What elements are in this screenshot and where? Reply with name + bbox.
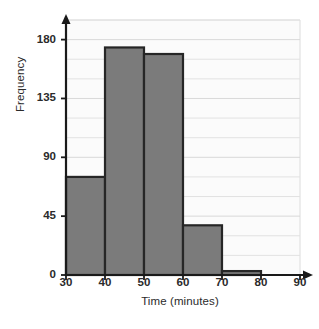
y-axis-arrow	[62, 14, 71, 24]
x-tick-labels: 30405060708090	[0, 277, 319, 297]
x-tick-label: 70	[207, 277, 237, 289]
histogram-chart: 04590135180 30405060708090 Frequency Tim…	[0, 0, 319, 329]
y-tick-label: 135	[26, 92, 56, 104]
bar	[105, 47, 144, 275]
x-tick-label: 30	[51, 277, 81, 289]
x-axis-title: Time (minutes)	[60, 295, 300, 307]
x-tick-label: 50	[129, 277, 159, 289]
bar	[66, 177, 105, 275]
x-tick-label: 40	[90, 277, 120, 289]
y-tick-label: 90	[26, 151, 56, 163]
x-tick-label: 60	[168, 277, 198, 289]
y-axis-title: Frequency	[14, 0, 30, 112]
x-tick-label: 90	[285, 277, 315, 289]
y-tick-label: 45	[26, 210, 56, 222]
bar	[183, 225, 222, 275]
bar	[144, 54, 183, 275]
y-tick-label: 180	[26, 34, 56, 46]
x-tick-label: 80	[246, 277, 276, 289]
